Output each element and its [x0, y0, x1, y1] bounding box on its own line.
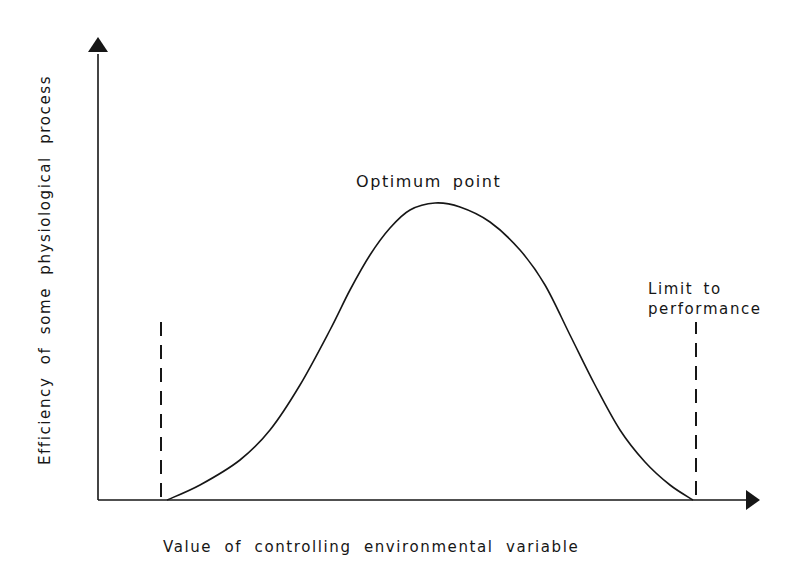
- performance-curve: [167, 203, 693, 500]
- limit-label-line1: Limit to: [648, 280, 722, 298]
- x-axis-label: Value of controlling environmental varia…: [163, 538, 579, 556]
- y-axis-arrowhead-icon: [88, 37, 108, 52]
- limit-label-line2: performance: [648, 300, 762, 318]
- x-axis-arrowhead-icon: [746, 490, 760, 510]
- y-axis-label: Efficiency of some physiological process: [36, 75, 54, 465]
- optimum-point-label: Optimum point: [356, 172, 501, 191]
- tolerance-curve-diagram: Efficiency of some physiological process…: [0, 0, 806, 581]
